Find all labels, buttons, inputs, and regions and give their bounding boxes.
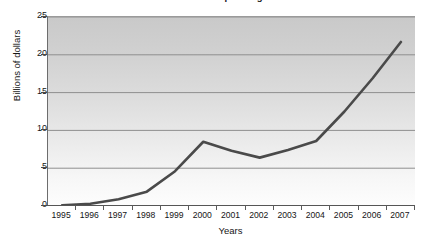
x-tick-mark (386, 205, 387, 210)
x-tick-mark (301, 205, 302, 210)
x-tick-mark (358, 205, 359, 210)
x-tick-label: 2000 (187, 210, 217, 220)
x-axis: 1995199619971998199920002001200220032004… (0, 0, 426, 244)
x-tick-mark (414, 205, 415, 210)
x-tick-mark (245, 205, 246, 210)
chart-figure: Internet Ad Spending Billions of dollars… (0, 0, 426, 244)
x-tick-mark (216, 205, 217, 210)
x-tick-mark (188, 205, 189, 210)
x-tick-label: 2005 (328, 210, 358, 220)
x-tick-label: 2003 (272, 210, 302, 220)
x-tick-mark (75, 205, 76, 210)
x-tick-label: 1995 (46, 210, 76, 220)
x-tick-mark (103, 205, 104, 210)
x-tick-mark (329, 205, 330, 210)
x-tick-mark (273, 205, 274, 210)
x-tick-mark (160, 205, 161, 210)
x-axis-title: Years (47, 225, 414, 236)
x-tick-label: 2006 (357, 210, 387, 220)
x-tick-mark (132, 205, 133, 210)
x-tick-label: 2004 (300, 210, 330, 220)
x-tick-label: 1997 (103, 210, 133, 220)
x-tick-label: 2001 (216, 210, 246, 220)
x-tick-label: 1999 (159, 210, 189, 220)
x-tick-label: 1996 (74, 210, 104, 220)
x-tick-label: 2007 (385, 210, 415, 220)
x-tick-label: 2002 (244, 210, 274, 220)
x-tick-label: 1998 (131, 210, 161, 220)
